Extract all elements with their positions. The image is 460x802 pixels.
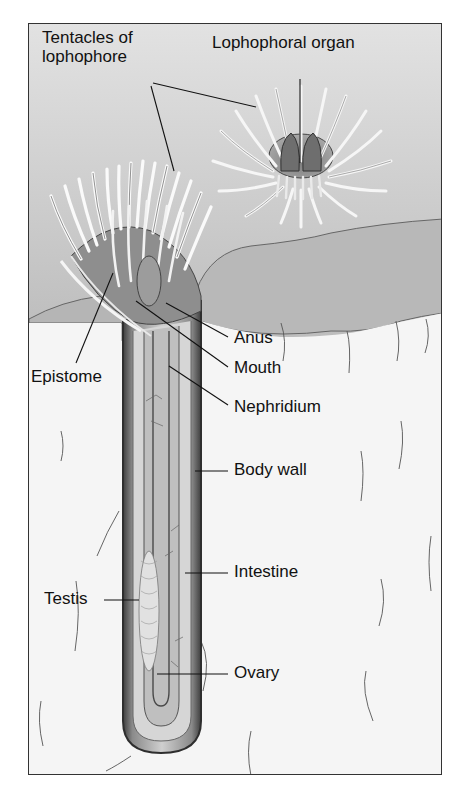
label-intestine: Intestine [234,562,298,581]
label-nephridium: Nephridium [234,397,321,416]
label-mouth: Mouth [234,358,281,377]
testis-body [139,551,159,671]
label-testis: Testis [44,589,87,608]
label-tentacles-line2: lophophore [42,47,133,66]
label-tentacles: Tentacles of lophophore [42,28,133,66]
label-ovary: Ovary [234,663,279,682]
label-lophophoral-organ: Lophophoral organ [212,33,355,52]
label-body-wall: Body wall [234,460,307,479]
label-tentacles-line1: Tentacles of [42,28,133,47]
label-epistome: Epistome [31,367,102,386]
label-anus: Anus [234,328,273,347]
